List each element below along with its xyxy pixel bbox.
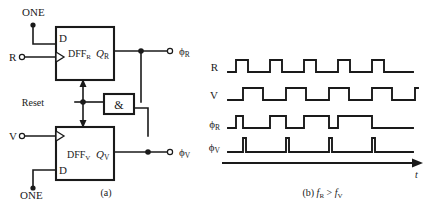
label-input-r: R (9, 51, 17, 63)
waveform-phi-v (228, 138, 413, 152)
label-phi-r: ϕR (179, 45, 190, 59)
wire-one-to-d-top (33, 27, 56, 44)
figure-container: ONE ONE R V D D DFFR QR DFFV QV Reset & … (0, 0, 431, 211)
panel-b-waveforms (228, 60, 418, 152)
junction-dot-qr-icon (138, 48, 144, 54)
label-phi-v: ϕV (179, 146, 191, 160)
wire-and-out (134, 108, 148, 136)
label-reset: Reset (22, 97, 44, 108)
wire-one-to-d-bottom (33, 170, 56, 187)
label-d-bottom: D (59, 164, 67, 176)
waveform-phi-r (228, 116, 413, 128)
time-axis (222, 159, 423, 168)
waveform-label-phi-r: ϕR (209, 118, 220, 132)
pfd-figure-svg: ONE ONE R V D D DFFR QR DFFV QV Reset & … (0, 0, 431, 211)
waveform-r (228, 60, 413, 72)
waveform-label-v: V (210, 89, 218, 101)
terminal-dot-one-top-icon (30, 22, 35, 27)
time-axis-arrow-icon (412, 159, 423, 168)
caption-panel-b: (b) fR > fV (290, 187, 350, 200)
caption-panel-a: (a) (100, 187, 111, 199)
label-input-v: V (9, 130, 17, 142)
terminal-circle-v-icon (19, 133, 24, 138)
terminal-circle-r-icon (19, 54, 24, 59)
label-one-top: ONE (22, 6, 45, 18)
label-d-top: D (59, 32, 67, 44)
waveform-label-phi-v: ϕV (209, 141, 221, 155)
junction-dot-reset-icon (80, 99, 86, 105)
label-one-bottom: ONE (20, 189, 43, 201)
waveform-label-r: R (211, 61, 219, 73)
junction-dot-qv-icon (145, 149, 151, 155)
label-time-axis: t (415, 169, 418, 180)
label-and-gate: & (114, 98, 124, 112)
terminal-circle-phir-icon (167, 48, 172, 53)
terminal-circle-phiv-icon (167, 149, 172, 154)
waveform-v (228, 88, 418, 100)
